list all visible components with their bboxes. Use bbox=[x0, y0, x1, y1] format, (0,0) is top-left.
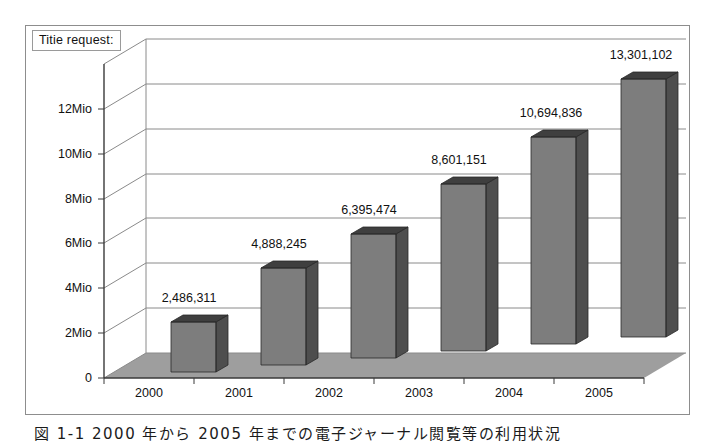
bar-2002 bbox=[351, 227, 408, 358]
y-tick-label-4mio: 4Mio bbox=[26, 281, 92, 295]
y-tick-label-0: 0 bbox=[26, 371, 92, 385]
x-tick-label-2000: 2000 bbox=[104, 386, 194, 400]
bar-2000 bbox=[171, 315, 228, 372]
value-label-2003: 8,601,151 bbox=[399, 153, 519, 167]
figure-caption-text: 図 1-1 2000 年から 2005 年までの電子ジャーナル閲覧等の利用状況 bbox=[34, 424, 561, 442]
screenshot-root: Titie request: 0 2Mio 4Mio 6Mio 8Mio 10M… bbox=[0, 0, 718, 442]
chart-canvas bbox=[26, 26, 689, 414]
y-tick-label-10mio: 10Mio bbox=[26, 147, 92, 161]
y-tick-label-12mio: 12Mio bbox=[26, 102, 92, 116]
value-label-2004: 10,694,836 bbox=[487, 106, 615, 120]
x-axis-ticks bbox=[104, 378, 644, 384]
back-wall bbox=[146, 39, 686, 353]
x-tick-label-2001: 2001 bbox=[194, 386, 284, 400]
chart-figure-frame: Titie request: 0 2Mio 4Mio 6Mio 8Mio 10M… bbox=[25, 25, 690, 415]
y-tick-label-6mio: 6Mio bbox=[26, 236, 92, 250]
bar-2001 bbox=[261, 261, 318, 365]
x-tick-label-2004: 2004 bbox=[464, 386, 554, 400]
value-label-2001: 4,888,245 bbox=[219, 237, 339, 251]
value-label-2000: 2,486,311 bbox=[129, 291, 249, 305]
bar-2004 bbox=[531, 130, 588, 344]
value-label-2005: 13,301,102 bbox=[577, 48, 705, 62]
y-tick-label-2mio: 2Mio bbox=[26, 326, 92, 340]
value-label-2002: 6,395,474 bbox=[309, 203, 429, 217]
chart-legend-title: Titie request: bbox=[32, 30, 121, 51]
x-tick-label-2003: 2003 bbox=[374, 386, 464, 400]
figure-caption-clipped: 図 1-1 2000 年から 2005 年までの電子ジャーナル閲覧等の利用状況 bbox=[0, 424, 718, 442]
x-tick-label-2002: 2002 bbox=[284, 386, 374, 400]
bar-2003 bbox=[441, 177, 498, 351]
bar-2005 bbox=[621, 72, 678, 337]
y-axis-ticks bbox=[98, 109, 104, 378]
chart-plot-area: Titie request: 0 2Mio 4Mio 6Mio 8Mio 10M… bbox=[26, 26, 689, 414]
x-tick-label-2005: 2005 bbox=[554, 386, 644, 400]
left-wall bbox=[104, 39, 146, 378]
y-tick-label-8mio: 8Mio bbox=[26, 192, 92, 206]
